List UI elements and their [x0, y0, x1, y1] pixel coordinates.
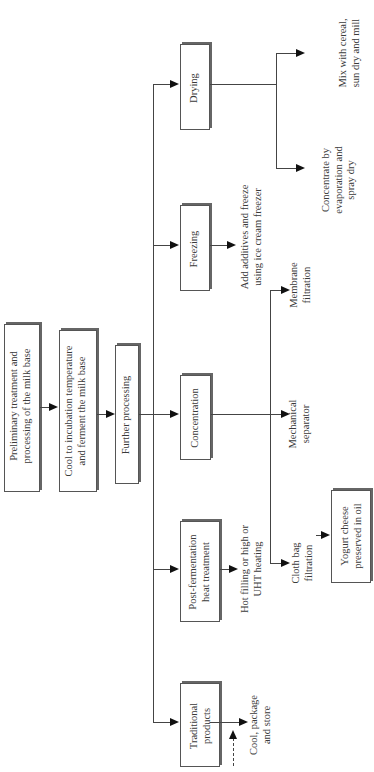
branch-traditional-box: Traditional products — [180, 683, 220, 767]
drying-output-mix-cereal: Mix with cereal, sun dry and mill — [337, 3, 363, 103]
label-line: products — [201, 684, 214, 768]
arrow-right-icon — [229, 565, 238, 573]
label-line: UHT heating — [252, 514, 265, 624]
branch-freezing-box: Freezing — [180, 205, 210, 291]
label-line: Mix with cereal, — [337, 3, 350, 103]
arrow-right-icon — [227, 241, 236, 249]
label-line: and ferment the milk base — [76, 331, 89, 491]
arrow-right-icon — [281, 559, 290, 567]
label-line: Further processing — [120, 345, 133, 485]
branch-postferm-box: Post-fermentation heat treatment — [180, 521, 220, 622]
connector — [153, 84, 171, 85]
connector — [153, 569, 171, 570]
branch-trunk — [153, 84, 154, 723]
label-line: sun dry and mill — [350, 3, 363, 103]
step-cool-box: Cool to incubation temperature and ferme… — [59, 330, 97, 492]
step-preliminary-label: Preliminary treatment and processing of … — [8, 322, 38, 490]
arrow-right-icon — [296, 49, 305, 57]
arrow-right-icon — [170, 241, 179, 249]
arrow-right-icon — [170, 718, 179, 726]
label-line: Cool to incubation temperature — [63, 331, 76, 491]
label-line: spray dry — [345, 135, 358, 225]
label-line: Mechanical — [287, 391, 300, 457]
connector — [153, 722, 171, 723]
label-line: filtration — [303, 535, 316, 591]
connector — [153, 245, 171, 246]
label-line: Cloth bag — [290, 535, 303, 591]
step-preliminary-box: Preliminary treatment and processing of … — [4, 324, 40, 492]
arrow-right-icon — [296, 164, 305, 172]
branch-drying-box: Drying — [180, 44, 210, 130]
label-line: Membrane — [288, 255, 301, 315]
concentration-output-membrane: Membrane filtration — [288, 255, 314, 315]
connector — [211, 414, 270, 415]
label-line: Yogurt cheese — [339, 490, 352, 583]
arrow-right-icon — [170, 410, 179, 418]
concentration-output-mechanical: Mechanical separator — [287, 391, 313, 457]
connector — [210, 722, 240, 723]
arrow-up-icon — [229, 730, 237, 739]
label-line: Drying — [188, 45, 201, 131]
label-line: Concentrate by — [320, 135, 333, 225]
step-cool-label: Cool to incubation temperature and ferme… — [63, 331, 93, 491]
label-line: preserved in oil — [351, 490, 364, 583]
label-line: Preliminary treatment and — [8, 322, 21, 490]
label-line: Concentration — [189, 375, 202, 461]
label-line: Add additives and freeze — [239, 174, 252, 300]
arrow-right-icon — [106, 410, 115, 418]
label-line: processing of the milk base — [21, 322, 34, 490]
traditional-output-label: Cool, package and store — [248, 690, 274, 760]
step-further-box: Further processing — [115, 345, 139, 484]
postferm-output-label: Hot filling or high or UHT heating — [239, 514, 265, 624]
connector — [270, 290, 271, 564]
arrow-right-icon — [49, 403, 58, 411]
label-line: Hot filling or high or — [239, 514, 252, 624]
arrow-right-icon — [239, 718, 248, 726]
arrow-right-icon — [170, 565, 179, 573]
connector — [276, 53, 296, 54]
connector — [153, 414, 171, 415]
step-further-label: Further processing — [120, 345, 134, 485]
branch-freezing-label: Freezing — [188, 206, 202, 292]
connector — [276, 53, 277, 169]
concentration-output-cloth-bag: Cloth bag filtration — [290, 535, 316, 591]
branch-concentration-box: Concentration — [180, 375, 211, 460]
branch-drying-label: Drying — [188, 45, 202, 131]
label-line: Freezing — [188, 206, 201, 292]
connector — [276, 168, 296, 169]
branch-postferm-label: Post-fermentation heat treatment — [187, 522, 213, 622]
label-line: Cool, package — [248, 690, 261, 760]
branch-traditional-label: Traditional products — [188, 684, 214, 768]
label-line: and store — [261, 690, 274, 760]
label-line: Traditional — [188, 684, 201, 768]
arrow-right-icon — [321, 531, 330, 539]
connector — [210, 245, 228, 246]
label-line: Post-fermentation — [187, 522, 200, 622]
branch-concentration-label: Concentration — [189, 375, 203, 461]
label-line: evaporation and — [333, 135, 346, 225]
label-line: using ice cream freezer — [252, 174, 265, 300]
freezing-output-label: Add additives and freeze using ice cream… — [239, 174, 265, 300]
label-line: filtration — [301, 255, 314, 315]
label-line: heat treatment — [200, 522, 213, 622]
connector — [210, 84, 276, 85]
label-line: separator — [300, 391, 313, 457]
final-product-label: Yogurt cheese preserved in oil — [339, 490, 365, 583]
arrow-right-icon — [170, 80, 179, 88]
dashed-connector — [233, 738, 234, 766]
connector — [139, 414, 153, 415]
final-product-box: Yogurt cheese preserved in oil — [331, 490, 371, 583]
drying-output-spray-dry: Concentrate by evaporation and spray dry — [320, 135, 358, 225]
